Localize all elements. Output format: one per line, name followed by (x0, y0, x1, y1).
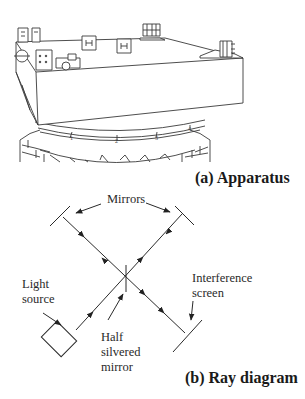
label-mirrors: Mirrors (107, 192, 145, 207)
label-half-silvered-line2: silvered (101, 345, 141, 360)
label-half-silvered-mirror: Half silvered mirror (101, 330, 141, 375)
caption-ray-diagram: (b) Ray diagram (185, 369, 298, 387)
light-source-box (41, 321, 76, 356)
figure: 1 2 3 4 (a) Apparatus (0, 0, 305, 399)
interference-screen (173, 320, 202, 352)
label-light-source: Light source (22, 277, 55, 307)
label-light-source-line1: Light (22, 277, 55, 292)
left-mirror (50, 206, 70, 226)
label-half-silvered-line1: Half (101, 330, 141, 345)
label-screen-line2: screen (192, 286, 252, 301)
right-mirror (175, 206, 194, 225)
label-screen-line1: Interference (192, 271, 252, 286)
label-half-silvered-line3: mirror (101, 360, 141, 375)
label-interference-screen: Interference screen (192, 271, 252, 301)
label-light-source-line2: source (22, 292, 55, 307)
ray-diagram (0, 0, 305, 399)
